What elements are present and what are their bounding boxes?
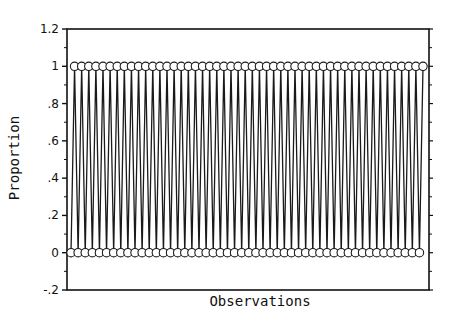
data-point-marker [415, 249, 423, 257]
y-tick-label: 1 [51, 59, 59, 73]
y-tick-label: -.2 [43, 283, 59, 297]
y-tick-label: 0 [51, 246, 59, 260]
stem-chart: -.20.2.4.6.811.2 [0, 0, 454, 322]
series-line [71, 66, 423, 252]
y-tick-label: .4 [48, 171, 59, 185]
y-tick-label: .8 [48, 97, 59, 111]
data-point-marker [419, 62, 427, 70]
data-series [67, 62, 427, 257]
y-tick-label: .6 [48, 134, 59, 148]
y-tick-label: .2 [48, 208, 59, 222]
y-tick-label: 1.2 [40, 22, 59, 36]
